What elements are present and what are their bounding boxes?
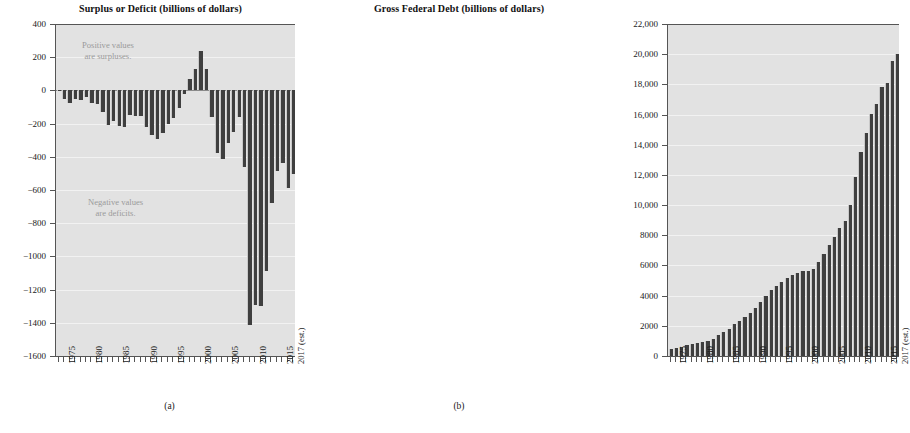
x-axis-tick bbox=[807, 357, 808, 362]
y-axis-label: 12,000 bbox=[610, 170, 658, 180]
x-axis-tick bbox=[743, 357, 744, 362]
y-axis-tick bbox=[50, 223, 55, 224]
x-axis-label: 2000 bbox=[203, 346, 213, 364]
bar bbox=[187, 79, 191, 90]
x-axis-tick bbox=[749, 357, 750, 362]
x-axis-tick bbox=[849, 357, 850, 362]
x-axis-tick bbox=[118, 357, 119, 362]
y-axis-label: −1000 bbox=[4, 251, 46, 261]
bar bbox=[790, 275, 794, 356]
x-axis-tick bbox=[134, 357, 135, 362]
x-axis-tick bbox=[775, 357, 776, 362]
x-axis-tick bbox=[243, 357, 244, 362]
bar bbox=[177, 90, 181, 108]
y-axis-label: −1600 bbox=[4, 351, 46, 361]
y-axis-tick bbox=[662, 326, 667, 327]
y-axis-tick bbox=[662, 24, 667, 25]
bar bbox=[122, 90, 126, 127]
panel-b-plot-top-border bbox=[667, 24, 899, 25]
bar bbox=[806, 271, 810, 356]
bar bbox=[895, 54, 899, 356]
gridline bbox=[668, 84, 899, 85]
x-axis-tick bbox=[200, 357, 201, 362]
bar bbox=[253, 90, 257, 305]
panel-b: Gross Federal Debt (billions of dollars)… bbox=[303, 0, 607, 433]
bar bbox=[62, 90, 66, 99]
x-axis-tick bbox=[90, 357, 91, 362]
bar bbox=[149, 90, 153, 135]
bar bbox=[237, 90, 241, 117]
bar bbox=[753, 308, 757, 356]
x-axis-label: 1990 bbox=[149, 346, 159, 364]
gridline bbox=[56, 323, 295, 324]
bar bbox=[280, 90, 284, 163]
x-axis-tick bbox=[85, 357, 86, 362]
x-axis-tick bbox=[140, 357, 141, 362]
bar bbox=[106, 90, 110, 125]
positive-values-note-line2: are surpluses. bbox=[82, 51, 134, 62]
x-axis-label: 1980 bbox=[705, 346, 715, 364]
x-axis-tick bbox=[854, 357, 855, 362]
bar bbox=[95, 90, 99, 103]
x-axis-tick bbox=[859, 357, 860, 362]
x-axis-label: 2017 (est.) bbox=[900, 328, 910, 364]
x-axis-tick bbox=[276, 357, 277, 362]
y-axis-label: −600 bbox=[4, 185, 46, 195]
x-axis-tick bbox=[780, 357, 781, 362]
x-axis-tick bbox=[728, 357, 729, 362]
bar bbox=[198, 51, 202, 90]
x-axis-tick bbox=[801, 357, 802, 362]
x-axis-tick bbox=[216, 357, 217, 362]
bar bbox=[843, 221, 847, 356]
bar bbox=[669, 349, 673, 356]
y-axis-label: 6000 bbox=[610, 260, 658, 270]
bar bbox=[258, 90, 262, 306]
bar bbox=[864, 133, 868, 356]
x-axis-tick bbox=[691, 357, 692, 362]
x-axis-label: 2000 bbox=[810, 346, 820, 364]
bar bbox=[264, 90, 268, 270]
y-axis-label: 0 bbox=[610, 351, 658, 361]
y-axis-tick bbox=[662, 115, 667, 116]
y-axis-label: 22,000 bbox=[610, 19, 658, 29]
bar bbox=[286, 90, 290, 187]
bar bbox=[879, 87, 883, 356]
x-axis-label: 1995 bbox=[176, 346, 186, 364]
x-axis-tick bbox=[107, 357, 108, 362]
x-axis-tick bbox=[172, 357, 173, 362]
x-axis-tick bbox=[227, 357, 228, 362]
bar bbox=[716, 335, 720, 356]
x-axis-label: 2010 bbox=[258, 346, 268, 364]
bar bbox=[209, 90, 213, 116]
bar bbox=[57, 90, 61, 91]
bar bbox=[67, 90, 71, 102]
y-axis-tick bbox=[50, 157, 55, 158]
bar bbox=[874, 104, 878, 356]
negative-values-note-line2: are deficits. bbox=[88, 208, 143, 219]
x-axis-tick bbox=[754, 357, 755, 362]
x-axis-tick bbox=[270, 357, 271, 362]
x-axis-label: 1990 bbox=[758, 346, 768, 364]
bar bbox=[127, 90, 131, 115]
y-axis-label: −1200 bbox=[4, 285, 46, 295]
bar bbox=[291, 90, 295, 173]
gridline bbox=[668, 54, 899, 55]
bar bbox=[73, 90, 77, 99]
bar bbox=[247, 90, 251, 325]
x-axis-tick bbox=[249, 357, 250, 362]
y-axis-tick bbox=[662, 265, 667, 266]
bar bbox=[155, 90, 159, 138]
x-axis-label: 1980 bbox=[94, 346, 104, 364]
panel-b-title: Gross Federal Debt (billions of dollars) bbox=[303, 3, 607, 14]
panel-a-caption: (a) bbox=[0, 401, 321, 411]
y-axis-label: −200 bbox=[4, 119, 46, 129]
y-axis-tick bbox=[50, 24, 55, 25]
bar bbox=[800, 271, 804, 356]
bar bbox=[171, 90, 175, 117]
y-axis-tick bbox=[662, 175, 667, 176]
bar bbox=[220, 90, 224, 159]
bar bbox=[885, 83, 889, 356]
bar bbox=[193, 69, 197, 90]
x-axis-tick bbox=[717, 357, 718, 362]
bar bbox=[748, 313, 752, 356]
